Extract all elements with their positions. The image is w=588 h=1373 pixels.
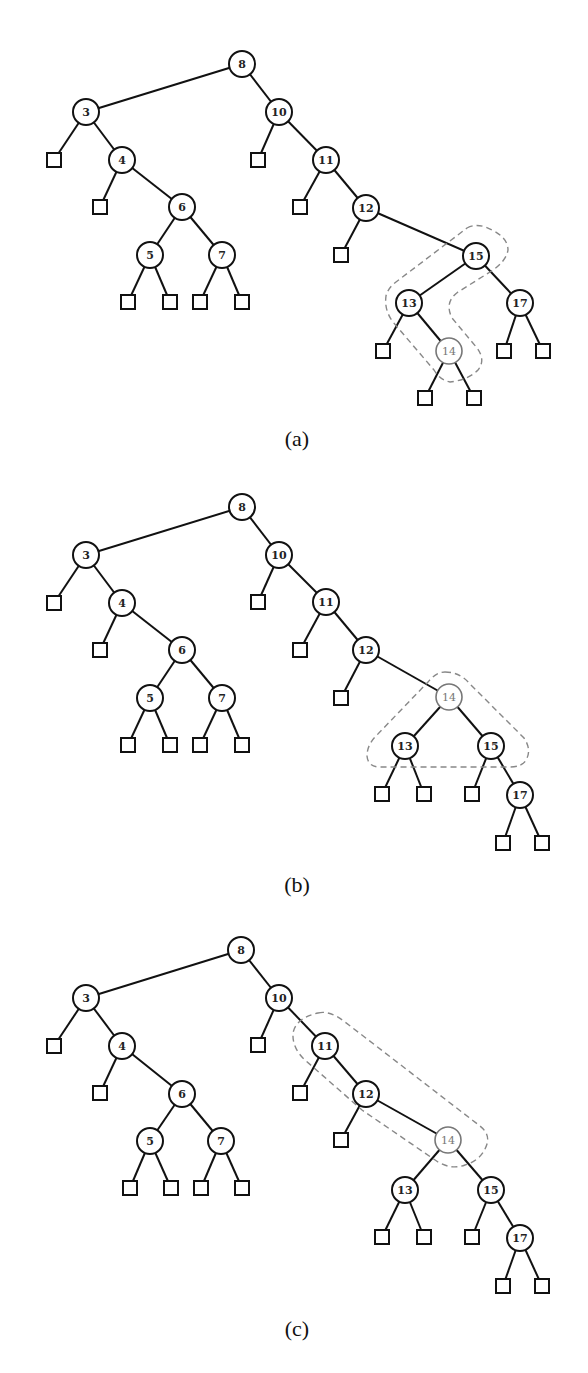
node-key: 10 [271,549,287,562]
node-key: 7 [218,692,226,705]
node-key: 8 [238,58,246,71]
tree-edge [86,950,241,998]
nil-leaf-square [376,344,390,358]
tree-node-8: 8 [229,51,255,77]
tree-node-6: 6 [169,1081,195,1107]
nil-leaf-square [251,1038,265,1052]
tree-node-4: 4 [109,1033,135,1059]
node-key: 8 [237,944,245,957]
nil-leaf-square [47,1039,61,1053]
node-key: 15 [468,250,483,263]
tree-node-4: 4 [109,590,135,616]
nil-leaf-square [375,787,389,801]
nil-leaf-square [536,344,550,358]
node-key: 14 [442,345,456,358]
nil-leaf-square [121,738,135,752]
nil-leaf-square [465,1230,479,1244]
panel-caption: (c) [285,1316,309,1341]
node-key: 17 [512,297,527,310]
nil-leaf-square [535,1279,549,1293]
panel-c: 83104116125714131517(c) [47,937,549,1341]
tree-node-10: 10 [266,542,292,568]
tree-node-3: 3 [73,542,99,568]
node-key: 4 [118,597,126,610]
nil-leaf-square [417,787,431,801]
tree-node-17: 17 [507,290,533,316]
node-key: 14 [442,691,456,704]
tree-edge [366,650,449,697]
tree-edge [86,64,242,112]
nil-leaf-square [496,836,510,850]
tree-node-6: 6 [169,637,195,663]
node-key: 12 [358,1088,373,1101]
node-key: 13 [397,740,412,753]
node-key: 13 [401,297,416,310]
node-key: 15 [483,1184,498,1197]
node-key: 4 [118,154,126,167]
tree-node-15: 15 [463,243,489,269]
tree-node-5: 5 [137,242,163,268]
nil-leaf-square [123,1181,137,1195]
nil-leaf-square [163,738,177,752]
nil-leaf-square [293,200,307,214]
node-key: 11 [318,596,333,609]
tree-node-14: 14 [435,1127,461,1153]
tree-node-7: 7 [209,242,235,268]
tree-node-11: 11 [313,147,339,173]
panel-caption: (b) [284,872,310,897]
tree-node-3: 3 [73,985,99,1011]
tree-edge [366,1094,448,1140]
tree-node-5: 5 [137,1128,163,1154]
nil-leaf-square [497,344,511,358]
nil-leaf-square [251,153,265,167]
tree-node-7: 7 [209,685,235,711]
tree-node-7: 7 [208,1128,234,1154]
node-key: 8 [238,501,246,514]
nil-leaf-square [235,738,249,752]
nil-leaf-square [418,391,432,405]
nil-leaf-square [293,1086,307,1100]
panel-a: 83104116125715131714(a) [47,51,550,451]
figure-canvas: 83104116125715131714(a) 8310411612571413… [0,0,588,1373]
nil-leaf-square [164,1181,178,1195]
nil-leaf-square [235,1181,249,1195]
node-key: 14 [441,1134,455,1147]
tree-node-11: 11 [313,589,339,615]
node-key: 7 [217,1135,225,1148]
node-key: 3 [82,106,90,119]
node-key: 13 [397,1184,412,1197]
nil-leaf-square [93,1086,107,1100]
tree-node-10: 10 [266,985,292,1011]
nil-leaf-square [93,200,107,214]
tree-node-6: 6 [169,194,195,220]
node-key: 7 [218,249,226,262]
tree-node-8: 8 [229,494,255,520]
nil-leaf-square [465,787,479,801]
nil-leaf-square [496,1279,510,1293]
node-key: 17 [512,1232,527,1245]
nil-leaf-square [163,295,177,309]
node-key: 6 [178,201,186,214]
node-key: 5 [146,1135,154,1148]
tree-node-3: 3 [73,99,99,125]
node-key: 5 [146,249,154,262]
nil-leaf-square [375,1230,389,1244]
nil-leaf-square [193,738,207,752]
tree-node-17: 17 [507,1225,533,1251]
tree-node-12: 12 [353,637,379,663]
nil-leaf-square [251,595,265,609]
nil-leaf-square [417,1230,431,1244]
tree-edge [366,208,476,256]
tree-node-13: 13 [392,1177,418,1203]
edges [54,64,543,398]
nil-leaf-square [235,295,249,309]
tree-node-15: 15 [478,1177,504,1203]
nil-leaf-square [47,596,61,610]
node-key: 11 [318,154,333,167]
node-key: 11 [317,1040,332,1053]
nil-leaf-square [47,153,61,167]
nil-leaf-square [193,295,207,309]
node-key: 4 [118,1040,126,1053]
nil-leaf-square [93,643,107,657]
node-key: 12 [358,644,373,657]
